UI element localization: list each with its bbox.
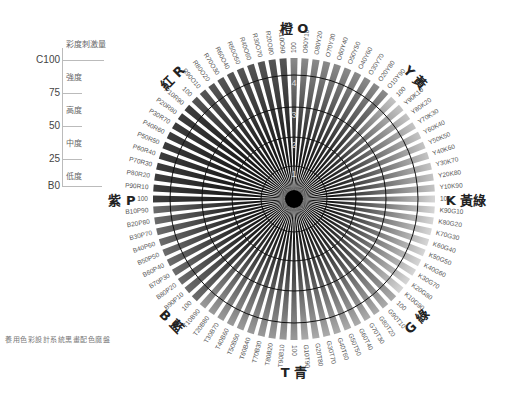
hue-label-t: T 青: [281, 362, 307, 381]
ring-label: 3: [291, 110, 296, 120]
spoke-label: 100: [180, 299, 193, 312]
wheel-hub: [285, 190, 303, 208]
wheel-spoke: [153, 195, 294, 202]
spoke-label: 100: [137, 195, 148, 202]
spoke-label: G50T50: [347, 332, 363, 357]
spoke-label: 100: [394, 85, 407, 98]
hue-label-k: K 黃綠: [446, 190, 487, 209]
spoke-label: P80R20: [126, 168, 151, 179]
spoke-label: Y20K80: [438, 168, 462, 179]
spoke-label: 100: [181, 85, 194, 98]
spoke-label: P70R30: [129, 155, 154, 167]
spoke-label: B30P70: [129, 229, 154, 241]
spoke-label: K80G20: [438, 218, 463, 229]
ring-label: 4: [291, 78, 296, 88]
hue-label-p: 紫 P: [108, 190, 135, 209]
spoke-label: T70B30: [250, 340, 262, 364]
spoke-label: T60B40: [238, 336, 252, 360]
spoke-label: G40T60: [337, 337, 351, 362]
hue-label-o: 橙 O: [280, 18, 309, 37]
spoke-label: 100: [395, 299, 408, 312]
spoke-label: O70Y30: [324, 32, 336, 57]
spoke-label: K70G30: [435, 229, 460, 241]
spoke-label: Y30K70: [435, 155, 460, 167]
wheel-spoke: [294, 195, 435, 202]
spoke-label: T50B50: [225, 332, 240, 356]
spoke-label: B20P80: [126, 218, 150, 229]
spoke-label: Y50K50: [427, 130, 451, 145]
spoke-label: T80B20: [263, 342, 274, 366]
spoke-label: P60R40: [132, 143, 157, 157]
spoke-label: 100: [291, 345, 298, 356]
caption: 養用色彩設計系統黑畫配色魔盤: [5, 334, 110, 344]
spoke-label: Y40K60: [432, 143, 457, 157]
spoke-label: R20O80: [265, 30, 276, 55]
spoke-label: G20T80: [314, 343, 325, 368]
spoke-label: 100: [290, 42, 297, 53]
ring-label: 1: [291, 169, 296, 179]
spoke-label: G30T70: [325, 340, 337, 365]
spoke-label: R30O70: [252, 32, 265, 58]
ring-label: 2: [291, 140, 296, 150]
spoke-label: B40P60: [132, 240, 157, 254]
spoke-label: O80Y20: [313, 30, 324, 55]
wheel-spoke: [290, 199, 297, 340]
